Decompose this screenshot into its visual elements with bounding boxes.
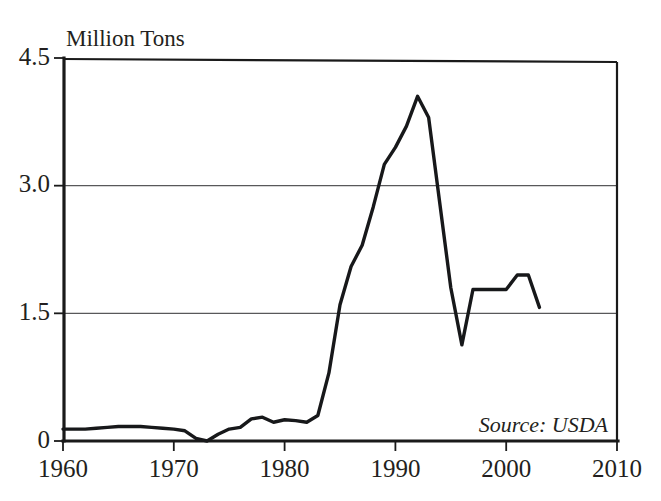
x-axis-tick-labels: 196019701980199020002010 xyxy=(38,455,642,482)
x-tick-label-5: 2010 xyxy=(592,455,642,482)
y-axis-title: Million Tons xyxy=(66,26,185,51)
x-tick-label-0: 1960 xyxy=(38,455,88,482)
y-tick-label-0: 0 xyxy=(38,426,51,453)
y-tick-label-3: 4.5 xyxy=(19,43,50,70)
y-axis-tick-labels: 01.53.04.5 xyxy=(19,43,50,453)
line-chart: 01.53.04.5 196019701980199020002010 Mill… xyxy=(0,0,661,501)
y-tick-label-2: 3.0 xyxy=(19,170,50,197)
x-tick-label-4: 2000 xyxy=(481,455,531,482)
chart-container: 01.53.04.5 196019701980199020002010 Mill… xyxy=(0,0,661,501)
plot-area-background xyxy=(63,58,617,441)
source-annotation: Source: USDA xyxy=(479,412,609,437)
x-tick-label-1: 1970 xyxy=(149,455,199,482)
x-tick-label-3: 1990 xyxy=(370,455,420,482)
x-tick-label-2: 1980 xyxy=(260,455,310,482)
y-tick-label-1: 1.5 xyxy=(19,298,50,325)
